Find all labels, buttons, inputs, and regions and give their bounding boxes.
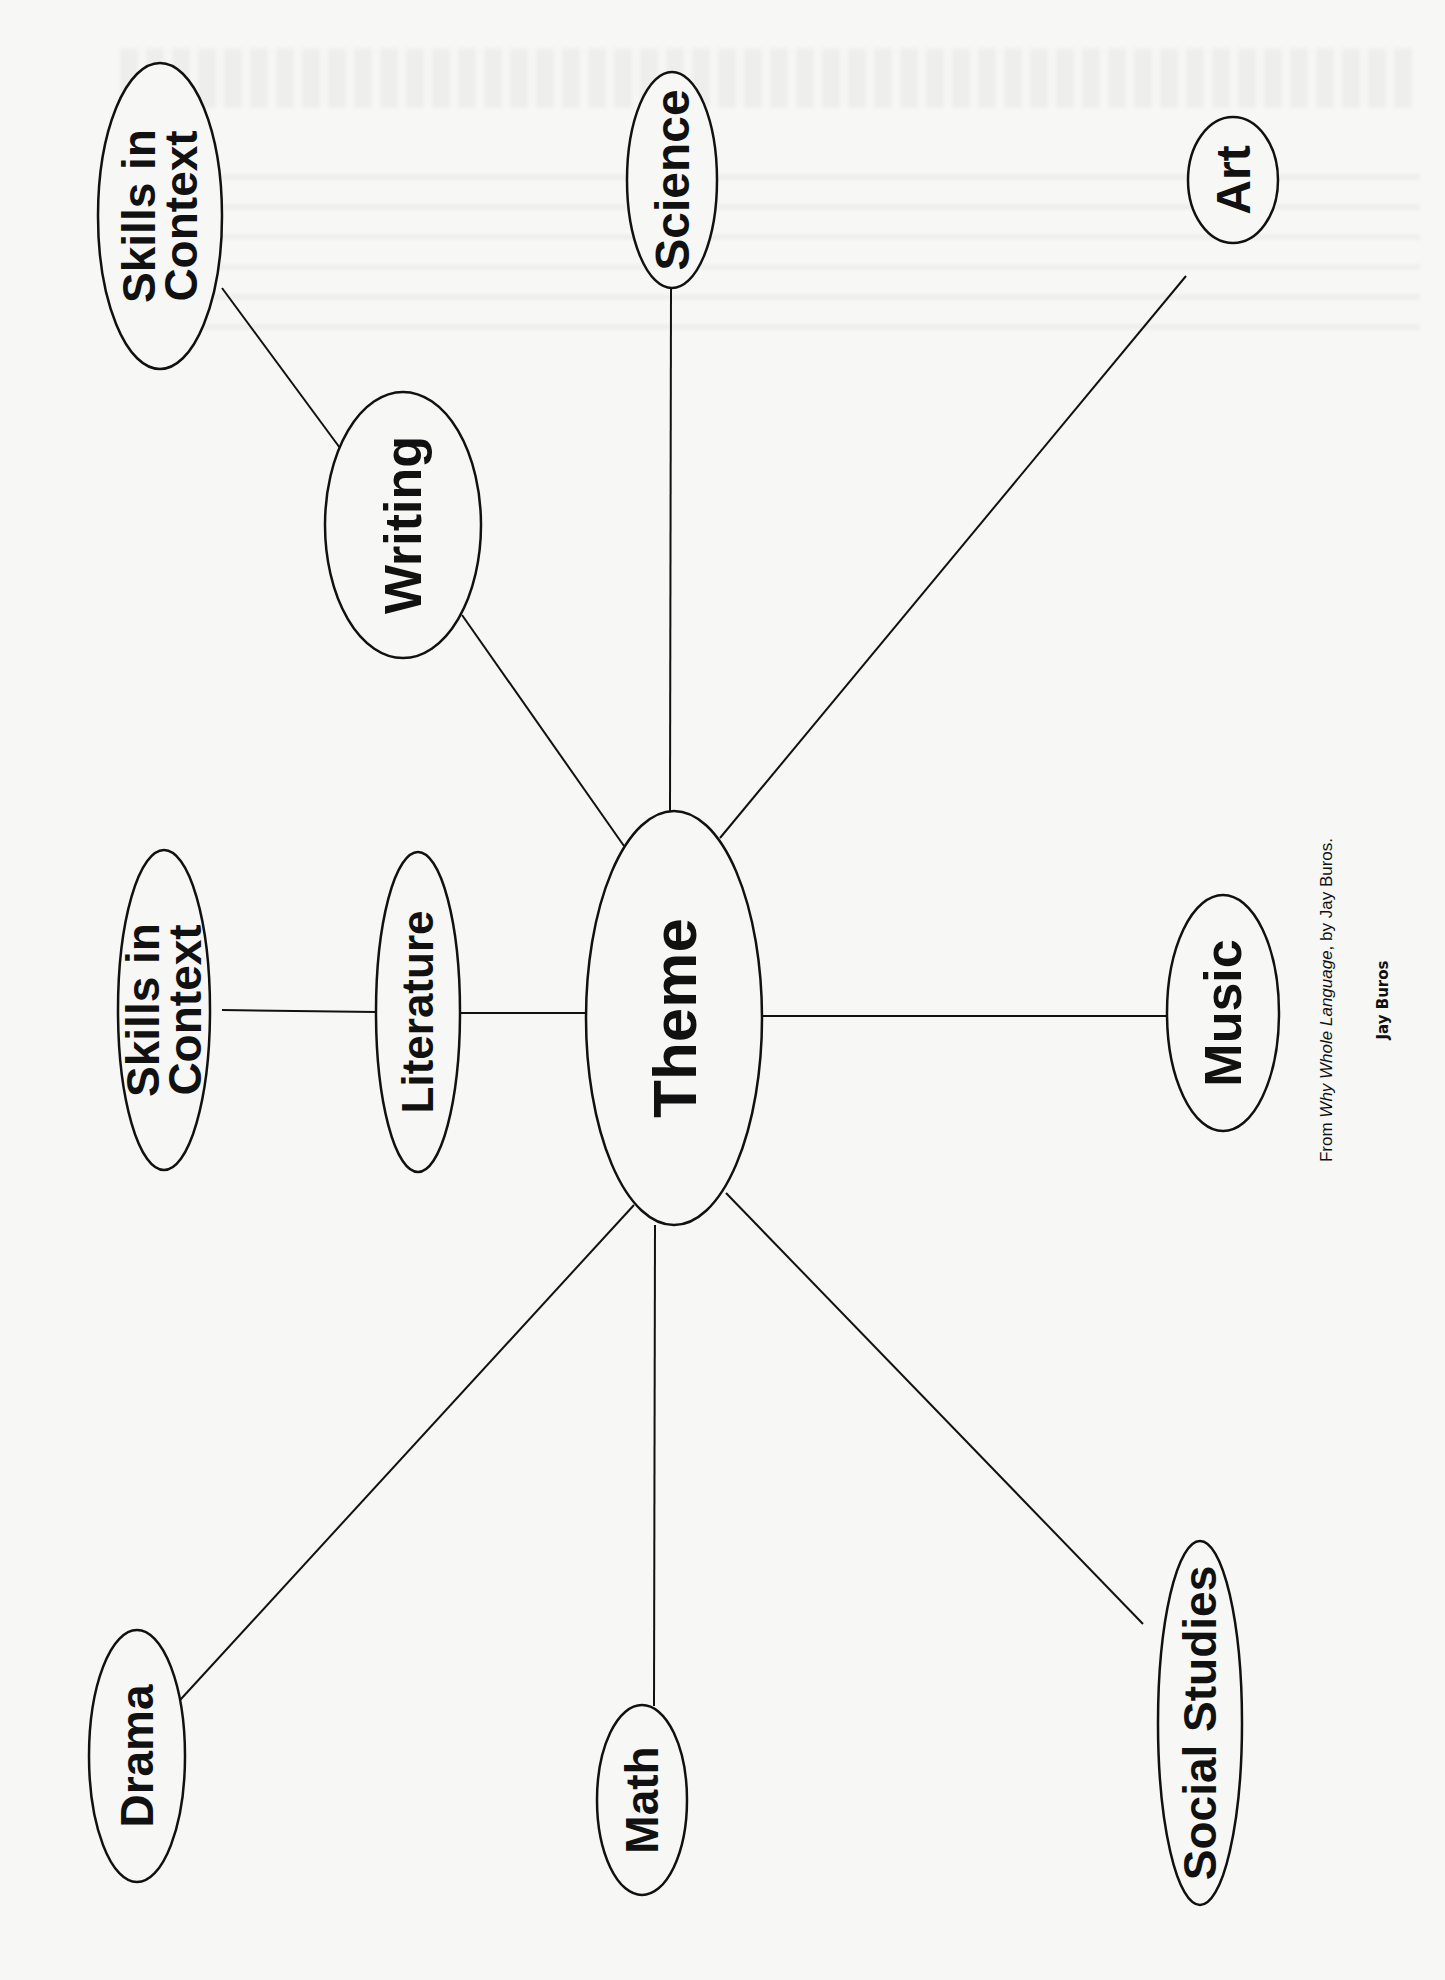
topic-nodes: ThemeLiteratureSkills inContextWritingSk… <box>89 63 1279 1905</box>
source-credit: From Why Whole Language, by Jay Buros. <box>1317 838 1337 1162</box>
edge-literature-to-skills-left <box>222 1010 376 1012</box>
book-title: Why Whole Language <box>1317 950 1336 1117</box>
node-writing: Writing <box>325 392 481 658</box>
node-label: Skills inContext <box>117 923 211 1097</box>
node-label: Skills inContext <box>113 129 207 303</box>
node-science: Science <box>627 72 717 288</box>
node-label: Math <box>616 1746 668 1853</box>
node-music: Music <box>1167 895 1279 1131</box>
edge-theme-to-drama <box>170 1205 634 1711</box>
credit-prefix: From <box>1317 1118 1336 1162</box>
node-label: Art <box>1207 145 1260 214</box>
edge-theme-to-social-studies <box>726 1193 1143 1624</box>
edge-writing-to-skills-top <box>222 288 340 448</box>
edge-theme-to-art <box>720 276 1186 838</box>
node-math: Math <box>597 1705 687 1895</box>
node-label: Science <box>646 89 699 270</box>
node-drama: Drama <box>89 1630 185 1882</box>
node-literature: Literature <box>376 852 460 1172</box>
node-label: Writing <box>374 436 432 614</box>
node-social-studies: Social Studies <box>1158 1541 1242 1905</box>
author-name: Jay Buros <box>1374 961 1392 1040</box>
node-theme: Theme <box>586 811 762 1225</box>
node-label: Drama <box>111 1684 163 1828</box>
credit-suffix: , by Jay Buros. <box>1317 838 1336 950</box>
edge-theme-to-writing <box>462 615 624 846</box>
node-label: Music <box>1194 939 1252 1086</box>
node-label: Social Studies <box>1174 1566 1226 1880</box>
node-skills-top: Skills inContext <box>98 63 222 369</box>
node-label: Theme <box>640 918 709 1118</box>
node-art: Art <box>1188 117 1278 243</box>
node-skills-left: Skills inContext <box>117 850 211 1170</box>
node-label: Literature <box>393 911 442 1114</box>
edge-theme-to-science <box>670 288 671 811</box>
theme-web-diagram: ThemeLiteratureSkills inContextWritingSk… <box>0 0 1445 1980</box>
edge-theme-to-math <box>654 1225 655 1706</box>
